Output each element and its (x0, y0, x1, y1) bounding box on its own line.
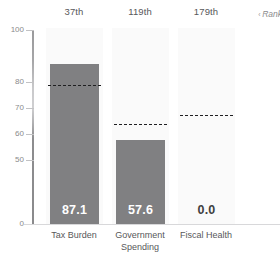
column-band (178, 28, 235, 224)
y-axis-tick-label: 100 (0, 26, 24, 34)
bar-value-label: 0.0 (182, 203, 231, 217)
reference-line (114, 124, 167, 125)
y-axis-tick-label: 80 (0, 78, 24, 86)
bar-value-label: 87.1 (50, 203, 99, 217)
rank-label-fiscal-health: 179th (166, 6, 246, 17)
baseline (24, 224, 280, 225)
reference-line (180, 115, 233, 116)
y-axis-tick (26, 134, 34, 135)
rank-annotation-label: Rank (262, 9, 280, 19)
reference-line (48, 85, 101, 86)
score-bar-chart: 37th 119th 179th ‹Rank 100807060500 87.1… (0, 0, 280, 262)
y-axis-line (32, 30, 34, 224)
y-axis-tick-label: 50 (0, 156, 24, 164)
y-axis-tick (26, 160, 34, 161)
y-axis-tick (26, 82, 34, 83)
rank-header-row: 37th 119th 179th ‹Rank (0, 0, 280, 26)
y-axis-tick-label: 60 (0, 130, 24, 138)
rank-annotation: ‹Rank (258, 9, 280, 19)
category-label-row: Tax Burden Government Spending Fiscal He… (0, 230, 280, 262)
bar (50, 64, 99, 224)
chevron-left-icon: ‹ (258, 11, 260, 18)
y-axis-tick-label: 70 (0, 104, 24, 112)
y-axis-tick-label: 0 (0, 220, 24, 228)
category-label-fiscal-health: Fiscal Health (164, 230, 248, 242)
bar-value-label: 57.6 (116, 203, 165, 217)
y-axis-tick (26, 108, 34, 109)
y-axis-tick (26, 30, 34, 31)
plot-area: 100807060500 87.157.60.0 (0, 26, 280, 226)
